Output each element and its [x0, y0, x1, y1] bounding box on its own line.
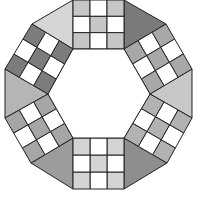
white-cell: [73, 16, 90, 32]
shaded-cell: [73, 138, 90, 155]
square-top: [73, 0, 124, 49]
diagram-canvas: [0, 0, 200, 199]
shaded-cell: [107, 0, 124, 16]
square-bottom: [73, 138, 124, 189]
shaded-cell: [107, 33, 124, 49]
dodecagon-ring-diagram: [0, 0, 200, 199]
shaded-cell: [107, 138, 124, 155]
white-cell: [73, 155, 90, 172]
white-cell: [107, 16, 124, 32]
white-cell: [107, 155, 124, 172]
shaded-cell: [73, 172, 90, 189]
shaded-cell: [107, 172, 124, 189]
shaded-cell: [90, 155, 107, 172]
white-cell: [90, 0, 107, 16]
white-cell: [90, 138, 107, 155]
shaded-cell: [73, 33, 90, 49]
shaded-cell: [90, 16, 107, 32]
white-cell: [90, 172, 107, 189]
white-cell: [90, 33, 107, 49]
shaded-cell: [73, 0, 90, 16]
